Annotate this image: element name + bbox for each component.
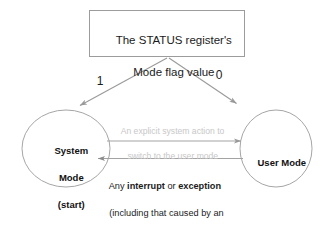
forward-caption-line2: switch to the user mode [127,151,218,161]
reverse-caption-seg3: or [165,181,178,191]
decision-box-line2: Mode flag value [133,66,214,78]
mode-flag-state-diagram: The STATUS register's Mode flag value 1 … [0,0,322,230]
system-mode-line3: (start) [58,199,85,210]
decision-box-line1: The STATUS register's [116,34,232,46]
reverse-caption-seg1: Any [109,181,127,191]
reverse-transition-caption: Any interrupt or exception (including th… [99,166,267,230]
system-mode-label: System Mode (start) [26,131,106,225]
branch-label-one: 1 [92,74,108,88]
forward-caption-line1: An explicit system action to [121,126,225,136]
branch-label-zero: 0 [211,68,227,82]
reverse-caption-line2: (including that caused by an [109,208,223,218]
decision-box-label: The STATUS register's Mode flag value [90,17,245,96]
system-mode-line2: Mode [59,172,84,183]
reverse-caption-seg4-exception: exception [178,181,221,191]
system-mode-line1: System [54,145,88,156]
reverse-caption-seg2-interrupt: interrupt [127,181,165,191]
